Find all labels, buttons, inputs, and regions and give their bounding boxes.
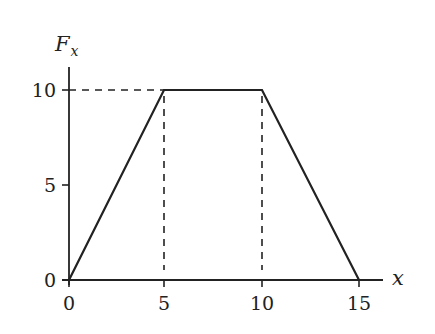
- x-tick-label-15: 15: [347, 292, 371, 314]
- trapezoid-chart: 10 5 0 0 5 10 15 Fx x: [0, 0, 435, 334]
- x-tick-label-10: 10: [250, 292, 274, 314]
- x-tick-label-5: 5: [158, 292, 170, 314]
- x-tick-label-0: 0: [63, 292, 75, 314]
- x-axis-label: x: [392, 266, 404, 290]
- y-tick-label-0: 0: [44, 269, 56, 291]
- data-line: [69, 90, 359, 280]
- y-axis-label: Fx: [54, 32, 79, 59]
- y-axis-label-sub: x: [71, 43, 79, 59]
- y-tick-label-10: 10: [32, 79, 56, 101]
- y-axis-label-main: F: [54, 32, 71, 56]
- y-tick-label-5: 5: [44, 174, 56, 196]
